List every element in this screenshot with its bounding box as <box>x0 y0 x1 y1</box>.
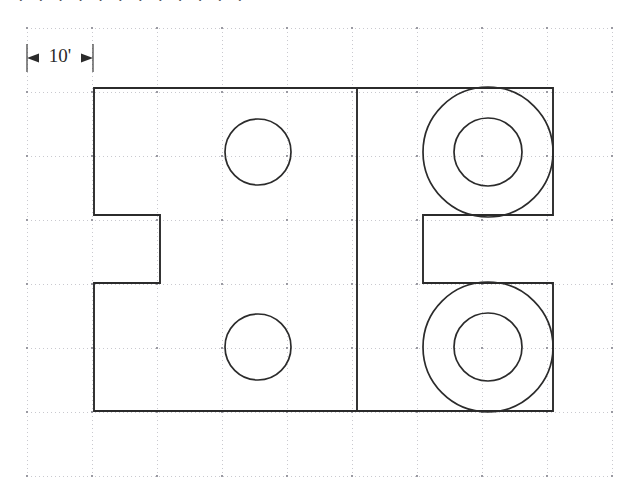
grid-intersection-node <box>156 347 158 349</box>
grid-intersection-node <box>351 347 353 349</box>
hole-features <box>225 87 553 412</box>
dimension-arrow-left-icon <box>27 54 39 63</box>
grid-intersection-node <box>546 91 548 93</box>
grid-intersection-node <box>611 475 613 477</box>
dimension-arrow-right-icon <box>81 54 93 63</box>
grid-intersection-node <box>611 347 613 349</box>
grid-intersection-node <box>91 155 93 157</box>
grid-intersection-node <box>481 155 483 157</box>
grid-intersection-node <box>351 283 353 285</box>
part-geometry <box>94 87 553 412</box>
grid-intersection-node <box>481 91 483 93</box>
grid-intersection-node <box>26 155 28 157</box>
grid-intersection-node <box>286 27 288 29</box>
grid-intersection-node <box>416 475 418 477</box>
grid-intersection-node <box>221 91 223 93</box>
grid-intersection-node <box>416 27 418 29</box>
grid-intersection-node <box>156 91 158 93</box>
grid-intersection-node <box>91 27 93 29</box>
grid-intersection-node <box>286 347 288 349</box>
part-outline <box>94 88 553 411</box>
dimension-annotation: 10' <box>27 44 93 72</box>
grid-intersection-node <box>351 475 353 477</box>
grid-intersection-node <box>221 155 223 157</box>
grid-intersection-node <box>91 283 93 285</box>
grid-intersection-node <box>26 27 28 29</box>
grid-intersection-node <box>611 283 613 285</box>
grid-intersection-node <box>221 219 223 221</box>
grid-intersection-node <box>611 155 613 157</box>
grid-intersection-node <box>546 475 548 477</box>
grid-intersection-node <box>156 27 158 29</box>
grid-intersection-node <box>26 475 28 477</box>
grid-intersection-node <box>611 27 613 29</box>
grid-intersection-node <box>91 475 93 477</box>
counterbore-bottom-right-inner <box>454 313 522 381</box>
background-grid <box>26 27 613 477</box>
grid-intersection-node <box>221 283 223 285</box>
grid-intersection-node <box>91 91 93 93</box>
counterbore-top-right-outer <box>423 87 553 217</box>
grid-intersection-node <box>221 27 223 29</box>
grid-intersection-node <box>156 155 158 157</box>
grid-intersection-node <box>26 219 28 221</box>
grid-intersection-node <box>286 155 288 157</box>
grid-intersection-node <box>26 91 28 93</box>
grid-intersection-node <box>611 411 613 413</box>
grid-intersection-node <box>416 155 418 157</box>
grid-intersection-node <box>546 347 548 349</box>
grid-intersection-node <box>221 347 223 349</box>
grid-intersection-node <box>416 91 418 93</box>
grid-intersection-node <box>611 219 613 221</box>
grid-intersection-node <box>156 219 158 221</box>
grid-intersection-node <box>611 91 613 93</box>
grid-intersection-node <box>286 91 288 93</box>
drawing-viewport: 10' <box>0 0 641 487</box>
grid-intersection-node <box>26 283 28 285</box>
grid-intersection-node <box>481 475 483 477</box>
grid-intersection-node <box>91 411 93 413</box>
counterbore-bottom-right-outer <box>423 282 553 412</box>
grid-intersection-node <box>546 219 548 221</box>
grid-intersection-node <box>26 411 28 413</box>
grid-intersection-node <box>286 219 288 221</box>
grid-intersection-node <box>481 27 483 29</box>
grid-intersection-node <box>221 475 223 477</box>
dimension-label: 10' <box>49 45 71 66</box>
grid-intersection-node <box>351 27 353 29</box>
technical-drawing-canvas: · · · · · · · · · · · · 10' <box>0 0 641 487</box>
grid-intersection-node <box>481 219 483 221</box>
grid-intersection-node <box>351 91 353 93</box>
grid-intersection-node <box>416 219 418 221</box>
grid-intersection-node <box>286 283 288 285</box>
grid-intersection-node <box>286 475 288 477</box>
small-hole-bottom-left <box>225 314 291 380</box>
grid-intersection-node <box>481 347 483 349</box>
grid-intersection-node <box>351 219 353 221</box>
small-hole-top-left <box>225 119 291 185</box>
grid-intersection-node <box>351 155 353 157</box>
grid-intersection-node <box>156 475 158 477</box>
grid-intersection-node <box>416 283 418 285</box>
grid-intersection-node <box>91 219 93 221</box>
grid-intersection-node <box>91 347 93 349</box>
grid-intersection-node <box>546 155 548 157</box>
counterbore-top-right-inner <box>454 118 522 186</box>
grid-intersection-node <box>26 347 28 349</box>
grid-intersection-node <box>416 347 418 349</box>
grid-intersection-node <box>546 27 548 29</box>
